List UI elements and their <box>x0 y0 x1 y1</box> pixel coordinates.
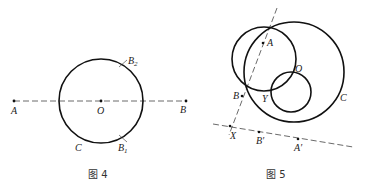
point-b <box>185 100 188 103</box>
caption-fig4: 图 4 <box>88 169 108 180</box>
label-y: Y <box>262 93 269 104</box>
label-x: X <box>229 130 237 141</box>
label-o: O <box>97 105 104 116</box>
point-b-prime <box>258 131 261 134</box>
label-b1: B1 <box>118 142 128 155</box>
point-a-prime <box>297 138 300 141</box>
figure-4: A O B C B1 B2 图 4 <box>10 55 187 180</box>
label-c: C <box>340 92 347 103</box>
label-b2: B2 <box>128 55 138 68</box>
label-c: C <box>75 142 82 153</box>
point-a <box>262 42 265 45</box>
figure-5: A B O Y C X B′ A′ 图 5 <box>213 8 353 180</box>
circle-through-a-b <box>232 27 296 91</box>
caption-fig5: 图 5 <box>266 169 286 180</box>
label-o: O <box>295 63 302 74</box>
point-a <box>13 100 16 103</box>
label-a: A <box>10 105 18 116</box>
point-b <box>241 95 244 98</box>
label-b-prime: B′ <box>256 135 265 146</box>
label-b: B <box>180 104 186 115</box>
point-x <box>229 125 232 128</box>
diagram-canvas: A O B C B1 B2 图 4 A B O Y C X B′ A′ 图 5 <box>0 0 367 189</box>
point-o <box>100 100 103 103</box>
label-b: B <box>233 90 239 101</box>
label-a: A <box>266 37 274 48</box>
label-a-prime: A′ <box>293 142 303 153</box>
circle-small <box>271 72 311 112</box>
